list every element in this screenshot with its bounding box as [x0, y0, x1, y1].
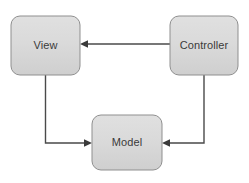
node-view[interactable]: View: [11, 16, 80, 75]
edge-controller-to-model-line: [166, 75, 204, 143]
node-model[interactable]: Model: [92, 115, 162, 170]
node-controller-label: Controller: [180, 39, 229, 51]
mvc-diagram: View Controller Model: [0, 0, 249, 183]
arrowhead-into-model-right: [162, 139, 170, 147]
node-controller[interactable]: Controller: [170, 16, 238, 75]
edge-controller-to-model: [162, 75, 204, 147]
node-view-label: View: [33, 39, 57, 51]
edge-controller-to-view: [80, 40, 170, 48]
arrowhead-into-model-left: [84, 139, 92, 147]
node-model-label: Model: [112, 136, 142, 148]
edge-view-to-model: [46, 75, 93, 147]
diagram-canvas: View Controller Model: [0, 0, 249, 183]
edge-view-to-model-line: [46, 75, 89, 143]
arrowhead-into-view: [80, 40, 88, 48]
